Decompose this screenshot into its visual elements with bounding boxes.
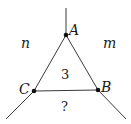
vertex-c-label: C xyxy=(19,81,30,97)
triangle-diagram: A B C n m 3 ? xyxy=(0,0,131,124)
vertex-a-point xyxy=(64,33,69,38)
edge-c-b xyxy=(34,90,98,91)
region-right-label: m xyxy=(103,35,116,51)
vertex-a-label: A xyxy=(67,22,79,38)
vertex-c-point xyxy=(32,89,37,94)
region-bottom-label: ? xyxy=(61,99,68,114)
vertex-b-label: B xyxy=(100,79,111,95)
region-left-label: n xyxy=(21,35,30,51)
vertex-b-point xyxy=(96,88,101,93)
region-inner-label: 3 xyxy=(61,67,69,82)
edge-a-b xyxy=(66,35,98,90)
edge-a-c xyxy=(34,35,66,91)
